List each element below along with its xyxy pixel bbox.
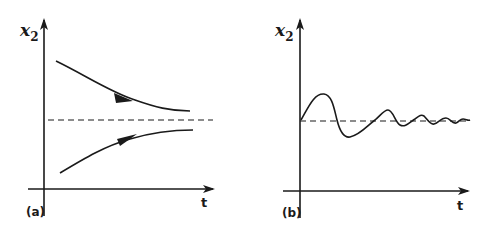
- x-axis-label: t: [457, 198, 463, 213]
- panel-b: x2 t (b): [274, 20, 470, 220]
- y-axis-label: x2: [19, 20, 39, 44]
- panel-a: x2 t (a): [19, 20, 213, 219]
- lower-trajectory: [60, 130, 193, 173]
- lower-trajectory-arrow-icon: [117, 134, 137, 146]
- damped-oscillation: [301, 94, 470, 137]
- upper-trajectory: [56, 61, 190, 111]
- x-axis-label: t: [201, 195, 207, 210]
- y-axis-label: x2: [274, 20, 294, 44]
- panel-caption: (a): [26, 205, 45, 219]
- panel-caption: (b): [282, 206, 302, 220]
- figure: x2 t (a) x2 t (b): [0, 0, 495, 235]
